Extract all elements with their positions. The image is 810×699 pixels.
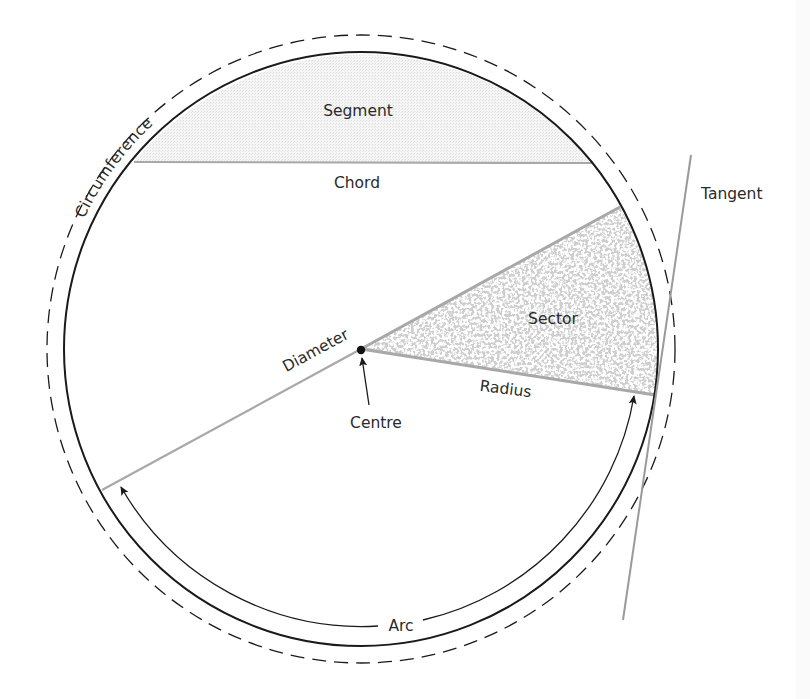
chord-line bbox=[134, 162, 592, 163]
arc-indicator-left bbox=[121, 487, 378, 626]
label-chord: Chord bbox=[334, 174, 380, 192]
label-radius: Radius bbox=[479, 377, 533, 401]
centre-arrow bbox=[362, 358, 369, 405]
label-segment: Segment bbox=[323, 102, 393, 120]
label-diameter: Diameter bbox=[280, 325, 353, 376]
diameter-line bbox=[102, 349, 361, 490]
label-circumference: Circumference bbox=[72, 114, 157, 221]
circle-diagram: Circumference Segment Chord Tangent Sect… bbox=[0, 0, 810, 699]
label-sector: Sector bbox=[528, 310, 578, 328]
sector-region bbox=[355, 200, 665, 400]
label-tangent: Tangent bbox=[700, 185, 763, 203]
label-arc: Arc bbox=[388, 617, 413, 635]
arc-indicator-right bbox=[423, 396, 634, 620]
label-centre: Centre bbox=[350, 414, 402, 432]
centre-point bbox=[357, 346, 365, 354]
